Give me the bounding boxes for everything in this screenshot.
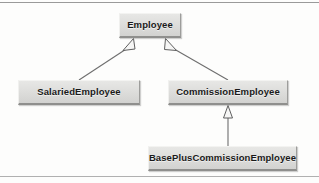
generalization-arrowhead-icon bbox=[165, 39, 177, 51]
class-box-commission-employee[interactable]: CommissionEmployee bbox=[168, 80, 288, 105]
edge-baseplus-to-commission bbox=[224, 106, 233, 147]
generalization-arrowhead-icon bbox=[224, 106, 233, 119]
class-box-salaried-employee[interactable]: SalariedEmployee bbox=[18, 80, 140, 105]
uml-class-diagram: Employee SalariedEmployee CommissionEmpl… bbox=[0, 0, 319, 183]
class-name-salaried-employee: SalariedEmployee bbox=[37, 87, 120, 97]
edge-commission-to-employee bbox=[165, 39, 229, 81]
class-box-employee[interactable]: Employee bbox=[119, 13, 181, 38]
class-name-commission-employee: CommissionEmployee bbox=[176, 87, 280, 97]
class-name-employee: Employee bbox=[127, 20, 173, 30]
class-box-base-plus-commission-employee[interactable]: BasePlusCommissionEmployee bbox=[148, 146, 297, 171]
generalization-arrowhead-icon bbox=[123, 39, 135, 51]
edge-salaried-to-employee bbox=[79, 39, 135, 81]
class-name-base-plus-commission-employee: BasePlusCommissionEmployee bbox=[149, 153, 296, 163]
